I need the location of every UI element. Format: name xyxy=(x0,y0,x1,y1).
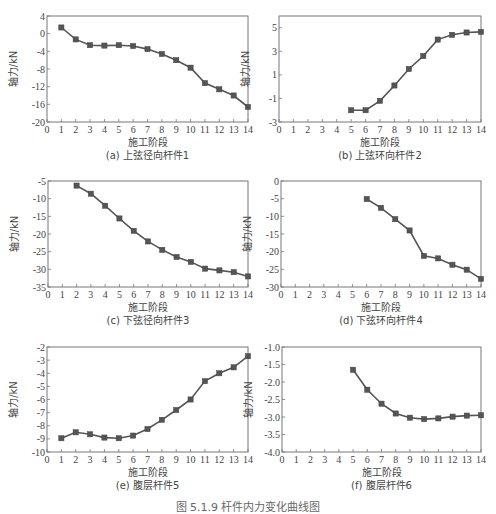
y-tick-label: -20 xyxy=(266,246,279,257)
y-tick-label: -10 xyxy=(266,211,279,222)
square-marker-icon xyxy=(116,436,121,441)
square-marker-icon xyxy=(131,433,136,438)
square-marker-icon xyxy=(145,239,150,244)
x-tick-label: 11 xyxy=(200,289,210,300)
square-marker-icon xyxy=(450,32,455,37)
x-tick-label: 6 xyxy=(131,124,136,135)
square-marker-icon xyxy=(59,436,64,441)
square-marker-icon xyxy=(116,43,121,48)
x-tick-label: 9 xyxy=(174,454,179,465)
square-marker-icon xyxy=(87,432,92,437)
x-tick-label: 14 xyxy=(243,124,253,135)
square-marker-icon xyxy=(478,29,483,34)
square-marker-icon xyxy=(117,216,122,221)
x-tick-label: 6 xyxy=(365,454,370,465)
square-marker-icon xyxy=(245,354,250,359)
x-axis-label: 施工阶段 xyxy=(128,301,168,313)
x-tick-label: 10 xyxy=(186,124,196,135)
y-tick-label: 0 xyxy=(40,28,45,39)
y-tick-label: -1 xyxy=(269,93,277,104)
x-tick-label: 12 xyxy=(214,289,224,300)
y-tick-label: 3 xyxy=(272,46,277,57)
x-tick-label: 1 xyxy=(59,454,64,465)
y-tick-label: -7 xyxy=(37,407,45,418)
x-tick-label: 1 xyxy=(294,454,299,465)
x-tick-label: 2 xyxy=(305,124,310,135)
square-marker-icon xyxy=(188,397,193,402)
square-marker-icon xyxy=(174,407,179,412)
x-tick-label: 3 xyxy=(88,289,93,300)
chart-panel-b: 01234567891011121314531-1-3施工阶段(b) 上弦环向杆… xyxy=(239,16,486,161)
figure-caption: 图 5.1.9 杆件内力变化曲线图 xyxy=(0,498,496,514)
x-tick-label: 10 xyxy=(186,454,196,465)
y-tick-label: -2 xyxy=(37,342,45,353)
square-marker-icon xyxy=(393,411,398,416)
square-marker-icon xyxy=(349,108,354,113)
y-tick-label: -5 xyxy=(37,381,45,392)
x-tick-label: 1 xyxy=(293,289,298,300)
y-tick-label: -30 xyxy=(33,264,46,275)
square-marker-icon xyxy=(231,93,236,98)
square-marker-icon xyxy=(378,205,383,210)
y-tick-label: -3.0 xyxy=(264,412,280,423)
y-tick-label: -25 xyxy=(266,264,279,275)
x-tick-label: 9 xyxy=(407,454,412,465)
y-tick-label: -3 xyxy=(37,355,45,366)
x-tick-label: 7 xyxy=(145,124,150,135)
data-series-line xyxy=(61,356,248,438)
x-tick-label: 4 xyxy=(334,124,339,135)
y-axis-label: 轴力/kN xyxy=(8,216,20,253)
y-tick-label: -1.5 xyxy=(264,359,280,370)
square-marker-icon xyxy=(103,203,108,208)
x-tick-label: 3 xyxy=(321,289,326,300)
square-marker-icon xyxy=(231,365,236,370)
subplot-caption: (c) 下弦径向杆件3 xyxy=(107,314,190,326)
square-marker-icon xyxy=(159,51,164,56)
plot-frame xyxy=(281,181,481,287)
x-tick-label: 3 xyxy=(322,454,327,465)
square-marker-icon xyxy=(217,268,222,273)
chart-panel-c: 01234567891011121314-5-10-15-20-25-30-35… xyxy=(8,176,253,327)
x-tick-label: 2 xyxy=(73,454,78,465)
chart-panel-e: 01234567891011121314-2-3-4-5-6-7-8-9-10施… xyxy=(7,342,253,492)
x-tick-label: 12 xyxy=(447,124,457,135)
x-tick-label: 10 xyxy=(186,289,196,300)
x-tick-label: 12 xyxy=(448,454,458,465)
square-marker-icon xyxy=(464,413,469,418)
square-marker-icon xyxy=(102,435,107,440)
square-marker-icon xyxy=(464,267,469,272)
x-tick-label: 0 xyxy=(279,289,284,300)
x-tick-label: 10 xyxy=(419,454,429,465)
x-tick-label: 8 xyxy=(159,124,164,135)
y-tick-label: -5 xyxy=(38,176,46,187)
square-marker-icon xyxy=(73,37,78,42)
y-tick-label: -4.0 xyxy=(264,447,280,458)
square-marker-icon xyxy=(174,58,179,63)
x-axis-label: 施工阶段 xyxy=(128,136,168,148)
x-tick-label: 14 xyxy=(243,454,253,465)
x-tick-label: 3 xyxy=(320,124,325,135)
y-tick-label: -8 xyxy=(37,420,45,431)
x-tick-label: 8 xyxy=(393,289,398,300)
square-marker-icon xyxy=(407,228,412,233)
x-tick-label: 0 xyxy=(45,454,50,465)
square-marker-icon xyxy=(203,266,208,271)
y-tick-label: -20 xyxy=(32,117,45,128)
square-marker-icon xyxy=(435,37,440,42)
chart-panel-f: 01234567891011121314-1.0-1.5-2.0-2.5-3.0… xyxy=(242,342,486,492)
square-marker-icon xyxy=(73,430,78,435)
square-marker-icon xyxy=(364,196,369,201)
y-tick-label: 0 xyxy=(274,176,279,187)
y-axis-label: 轴力/kN xyxy=(242,381,254,418)
x-tick-label: 9 xyxy=(174,289,179,300)
y-axis-label: 轴力/kN xyxy=(239,51,251,88)
x-tick-label: 0 xyxy=(280,454,285,465)
x-tick-label: 12 xyxy=(214,124,224,135)
square-marker-icon xyxy=(131,228,136,233)
y-tick-label: 5 xyxy=(272,22,277,33)
square-marker-icon xyxy=(245,274,250,279)
square-marker-icon xyxy=(392,83,397,88)
x-tick-label: 2 xyxy=(307,289,312,300)
y-tick-label: -8 xyxy=(37,64,45,75)
x-tick-label: 8 xyxy=(393,454,398,465)
